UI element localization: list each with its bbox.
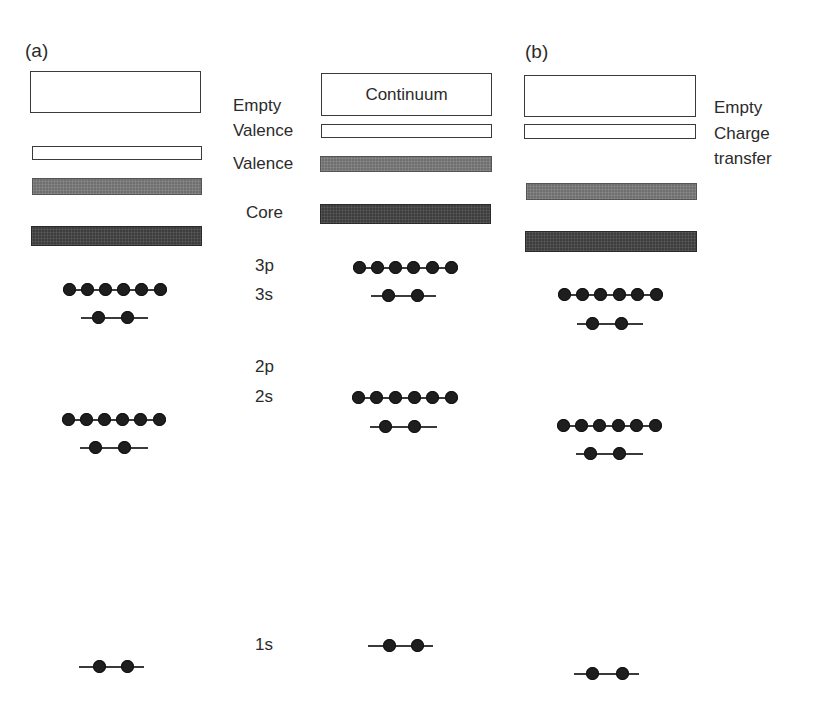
electron-icon (576, 288, 589, 301)
electron-icon (63, 283, 76, 296)
electron-icon (121, 660, 134, 673)
a-valence-empty-band (32, 146, 202, 160)
label-core: Core (246, 203, 283, 223)
electron-icon (584, 447, 597, 460)
b-1s-electrons (574, 667, 639, 681)
electron-icon (630, 419, 643, 432)
electron-icon (153, 413, 166, 426)
middle-3s-electrons (371, 289, 436, 303)
middle-2p-electrons (352, 391, 458, 405)
label-b-charge: Charge (714, 124, 770, 144)
b-core-band (525, 231, 697, 252)
electron-icon (98, 413, 111, 426)
a-empty-band (30, 71, 201, 113)
electron-icon (121, 311, 134, 324)
electron-icon (382, 289, 395, 302)
electron-icon (81, 283, 94, 296)
electron-icon (612, 419, 625, 432)
b-2p-electrons (557, 419, 662, 433)
electron-icon (408, 420, 421, 433)
middle-2s-electrons (370, 420, 437, 434)
electron-icon (383, 639, 396, 652)
label-valence: Valence (233, 154, 293, 174)
a-core-band (31, 226, 202, 246)
electron-icon (371, 261, 384, 274)
electron-icon (93, 660, 106, 673)
electron-icon (557, 419, 570, 432)
electron-icon (116, 413, 129, 426)
electron-icon (154, 283, 167, 296)
orbital-label-3p: 3p (255, 256, 274, 276)
label-empty: Empty (233, 96, 281, 116)
electron-icon (118, 441, 131, 454)
electron-icon (407, 261, 420, 274)
middle-3p-electrons (353, 261, 458, 275)
electron-icon (379, 420, 392, 433)
electron-icon (89, 441, 102, 454)
electron-icon (62, 413, 75, 426)
electron-icon (586, 317, 599, 330)
b-3p-electrons (558, 288, 663, 302)
electron-icon (353, 261, 366, 274)
electron-icon (631, 288, 644, 301)
panel-a-label: (a) (25, 40, 48, 62)
a-2s-electrons (80, 441, 148, 455)
panel-b-label: (b) (525, 41, 548, 63)
b-2s-electrons (576, 447, 643, 461)
electron-icon (613, 288, 626, 301)
electron-icon (426, 391, 439, 404)
electron-icon (408, 391, 421, 404)
electron-icon (389, 391, 402, 404)
b-3s-electrons (577, 317, 643, 331)
label-valence-empty: Valence (233, 121, 293, 141)
electron-icon (445, 391, 458, 404)
a-valence-band (32, 178, 202, 195)
continuum-label: Continuum (322, 74, 491, 115)
electron-icon (615, 317, 628, 330)
b-empty-band (524, 75, 696, 117)
orbital-label-3s: 3s (255, 285, 273, 305)
electron-icon (80, 413, 93, 426)
middle-continuum-band: Continuum (321, 73, 492, 116)
electron-icon (613, 447, 626, 460)
electron-icon (134, 413, 147, 426)
a-1s-electrons (79, 660, 144, 674)
b-charge-transfer-band (524, 124, 696, 139)
middle-valence-band (320, 156, 492, 172)
electron-icon (426, 261, 439, 274)
electron-icon (593, 419, 606, 432)
middle-valence-empty-band (321, 124, 492, 138)
electron-icon (616, 667, 629, 680)
b-valence-band (526, 183, 697, 200)
a-2p-electrons (62, 413, 166, 427)
electron-icon (411, 289, 424, 302)
electron-icon (92, 311, 105, 324)
a-3p-electrons (63, 283, 167, 297)
orbital-label-1s: 1s (255, 635, 273, 655)
electron-icon (389, 261, 402, 274)
electron-icon (445, 261, 458, 274)
electron-icon (649, 419, 662, 432)
electron-icon (352, 391, 365, 404)
electron-icon (135, 283, 148, 296)
electron-icon (117, 283, 130, 296)
energy-level-diagram: (a) (b) Empty Valence Valence Core Conti… (0, 0, 819, 707)
electron-icon (586, 667, 599, 680)
electron-icon (558, 288, 571, 301)
label-b-empty: Empty (714, 98, 762, 118)
electron-icon (99, 283, 112, 296)
middle-core-band (320, 204, 491, 224)
electron-icon (575, 419, 588, 432)
a-3s-electrons (81, 311, 148, 325)
electron-icon (650, 288, 663, 301)
middle-1s-electrons (368, 639, 433, 653)
label-b-transfer: transfer (714, 149, 772, 169)
electron-icon (411, 639, 424, 652)
orbital-label-2p: 2p (255, 357, 274, 377)
electron-icon (370, 391, 383, 404)
electron-icon (594, 288, 607, 301)
orbital-label-2s: 2s (255, 387, 273, 407)
